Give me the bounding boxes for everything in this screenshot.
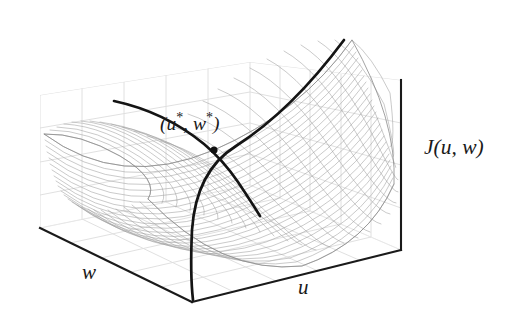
surface-silhouette bbox=[44, 40, 394, 267]
axis-u-line bbox=[192, 250, 401, 302]
saddle-point-marker bbox=[210, 146, 217, 153]
saddle-label-w: w bbox=[193, 113, 206, 134]
saddle-label-u: u bbox=[167, 113, 177, 134]
saddle-label-comma: , bbox=[183, 113, 193, 134]
saddle-point-label: (u*, w*) bbox=[160, 110, 220, 133]
surface-plot-figure: w u J(u, w) (u*, w*) bbox=[0, 0, 510, 316]
back-left-wall-grid bbox=[40, 62, 250, 228]
axis-label-u: u bbox=[298, 277, 309, 298]
saddle-surface-mesh bbox=[44, 40, 398, 267]
saddle-label-paren-close: ) bbox=[213, 113, 220, 134]
saddle-label-star-w: * bbox=[206, 109, 213, 125]
axis-label-j: J(u, w) bbox=[424, 137, 484, 159]
axis-label-w: w bbox=[82, 262, 96, 283]
